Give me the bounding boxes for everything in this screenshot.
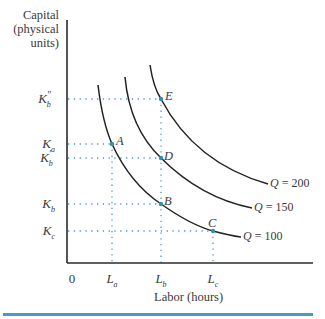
isoquant-q200 <box>150 65 268 184</box>
y-axis-label-line-1: Capital <box>13 8 59 22</box>
point-a-label: A <box>116 134 124 149</box>
point-b-marker <box>159 202 163 206</box>
isoquant-q200-label: Q = 200 <box>270 176 309 191</box>
bottom-rule-divider <box>3 313 313 316</box>
y-tick-kb: Kb <box>15 196 55 214</box>
x-tick-lc: Lc <box>198 271 228 289</box>
axes <box>67 20 313 263</box>
y-axis-label: Capital (physical units) <box>13 8 59 50</box>
x-axis-label: Labor (hours) <box>154 290 223 305</box>
isoquant-diagram: Capital (physical units) Kb″ Ka Kb′ Kb K… <box>0 0 325 319</box>
y-axis-label-line-3: units) <box>13 36 59 50</box>
point-c-label: C <box>208 216 216 231</box>
y-axis-label-line-2: (physical <box>13 22 59 36</box>
isoquant-q100-label: Q = 100 <box>243 229 282 244</box>
point-e-marker <box>159 97 163 101</box>
point-d-marker <box>159 156 163 160</box>
x-tick-la: La <box>97 271 127 289</box>
isoquant-curves <box>98 65 268 237</box>
y-tick-kb-prime: Kb′ <box>15 150 55 168</box>
dotted-guides <box>68 99 213 263</box>
points <box>110 97 215 233</box>
isoquant-q150-label: Q = 150 <box>254 200 293 215</box>
isoquant-q150 <box>125 77 252 208</box>
y-tick-kc: Kc <box>15 223 55 241</box>
x-tick-lb: Lb <box>146 271 176 289</box>
point-e-label: E <box>165 89 173 104</box>
point-b-label: B <box>164 194 172 209</box>
origin-label: 0 <box>57 271 87 287</box>
y-tick-kb-double-prime: Kb″ <box>15 91 55 109</box>
point-a-marker <box>110 142 114 146</box>
point-d-label: D <box>164 149 173 164</box>
